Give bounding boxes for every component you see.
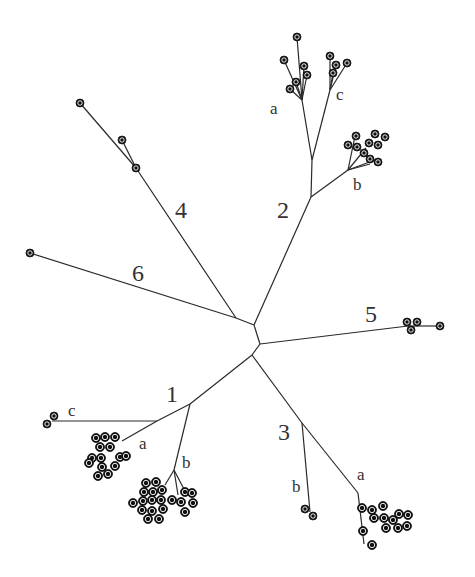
leaf-node [132,164,140,172]
leaf-node [332,61,340,69]
backbone [236,318,260,355]
leaf-node [344,141,352,149]
leaf-node [76,99,84,107]
clade-6 [26,249,236,318]
clade-2 [254,33,389,325]
leaf-node [374,158,382,166]
label-clade-1a: a [139,434,147,453]
leaf-node [352,132,360,140]
leaf-node [26,249,34,257]
label-clade-5: 5 [365,301,377,327]
label-clade-2c: c [336,85,344,104]
leaf-node [292,78,300,86]
leaf-node [360,149,368,157]
clade-1b-leaves [129,478,198,524]
leaf-node [303,71,311,79]
leaf-node [381,133,389,141]
label-clade-3b: b [292,477,301,496]
clade-3 [252,355,413,550]
label-clade-4: 4 [175,197,187,223]
tree-edge [311,170,348,197]
tree-edge [260,326,408,344]
label-clade-2b: b [353,175,362,194]
leaf-node [366,155,374,163]
leaf-node [43,420,51,428]
label-clade-1b: b [182,453,191,472]
leaf-node [371,130,379,138]
leaf-node [374,141,382,149]
tree-edge [252,355,302,423]
leaf-node [118,136,126,144]
leaf-node [286,85,294,93]
clade-1 [43,355,252,524]
tree-edge [236,318,254,325]
tree-edge [348,164,370,170]
leaf-node [293,33,301,41]
leaf-node [365,139,373,147]
label-clade-2: 2 [277,197,289,223]
leaf-node [407,326,415,334]
clade-3a-leaves [358,502,413,550]
label-clade-3a: a [357,465,365,484]
leaf-node [329,69,337,77]
leaf-node [326,52,334,60]
label-clade-1: 1 [166,381,178,407]
leaf-node [413,318,421,326]
leaf-node [343,59,351,67]
tree-edge [312,90,330,160]
label-clade-3: 3 [278,419,290,445]
tree-edge [80,103,136,168]
leaf-node [353,143,361,151]
leaf-node [280,56,288,64]
leaf-node [436,322,444,330]
tree-edge [311,160,312,197]
clade-4 [76,99,236,318]
clade-2b-leaves [344,130,389,170]
tree-edge [302,100,312,160]
tree-edge [358,493,364,544]
tree-edge [302,423,358,493]
tree-edge [302,423,310,512]
leaf-node [50,412,58,420]
tree-edge [252,344,260,355]
tree-edge [136,168,236,318]
clade-5 [260,318,444,344]
phylogenetic-tree: 4 6 2 a c b 5 1 c a b 3 b a [0,0,475,577]
label-clade-6: 6 [132,260,144,286]
label-clade-1c: c [68,401,76,420]
tree-edge [254,325,260,344]
leaf-node [403,318,411,326]
tree-edge [165,470,174,485]
label-clade-2a: a [270,99,278,118]
leaf-node [309,512,317,520]
tree-edge [190,355,252,404]
leaf-node [300,62,308,70]
leaf-node [301,505,309,513]
